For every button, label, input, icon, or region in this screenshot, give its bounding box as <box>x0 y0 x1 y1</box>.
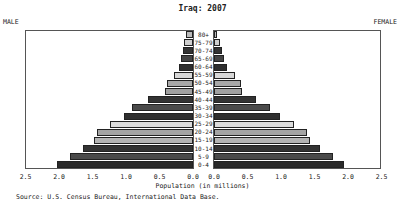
female-bar <box>214 129 307 136</box>
male-bar <box>97 129 193 136</box>
age-group-label: 0-4 <box>193 161 214 169</box>
age-group-label: 80+ <box>193 31 214 39</box>
x-tick-label: 1.5 <box>87 173 99 181</box>
male-bar <box>132 104 193 111</box>
female-bar <box>214 72 235 79</box>
x-tick-label: 1.0 <box>120 173 132 181</box>
x-tick-label: 0.0 <box>187 173 199 181</box>
age-group-label: 35-39 <box>193 104 214 112</box>
male-bar <box>148 96 193 103</box>
male-bar <box>181 55 193 62</box>
male-bar <box>183 47 193 54</box>
age-group-label: 40-44 <box>193 96 214 104</box>
female-bar <box>214 80 241 87</box>
female-label: FEMALE <box>374 18 397 26</box>
female-bar <box>214 88 242 95</box>
female-bar <box>214 64 227 71</box>
age-group-label: 30-34 <box>193 112 214 120</box>
age-group-label: 65-69 <box>193 55 214 63</box>
female-bar <box>214 121 294 128</box>
age-group-label: 45-49 <box>193 88 214 96</box>
x-tick-label: 2.0 <box>342 173 354 181</box>
male-bar <box>94 137 193 144</box>
male-bar <box>70 153 193 160</box>
male-bar <box>83 145 193 152</box>
male-bar <box>124 113 193 120</box>
female-bar <box>214 161 344 168</box>
age-group-label: 60-64 <box>193 63 214 71</box>
age-group-label: 50-54 <box>193 79 214 87</box>
male-bar <box>167 80 193 87</box>
female-bar <box>214 153 333 160</box>
x-tick-label: 0.5 <box>242 173 254 181</box>
female-bar <box>214 55 224 62</box>
male-bar <box>179 64 193 71</box>
male-bar <box>110 121 193 128</box>
age-group-label: 5-9 <box>193 153 214 161</box>
female-bar <box>214 31 217 38</box>
x-tick-label: 0.5 <box>154 173 166 181</box>
chart-title: Iraq: 2007 <box>0 4 405 13</box>
x-tick-label: 1.0 <box>275 173 287 181</box>
female-bar <box>214 145 320 152</box>
age-group-label: 20-24 <box>193 128 214 136</box>
age-group-label: 75-79 <box>193 39 214 47</box>
age-group-label: 55-59 <box>193 71 214 79</box>
female-bar <box>214 104 270 111</box>
age-group-label: 10-14 <box>193 145 214 153</box>
x-tick-label: 0.0 <box>208 173 220 181</box>
female-bar <box>214 47 222 54</box>
female-bar <box>214 39 220 46</box>
male-bar <box>184 39 193 46</box>
female-bar <box>214 113 280 120</box>
male-bar <box>57 161 193 168</box>
male-label: MALE <box>3 18 19 26</box>
female-bar <box>214 96 256 103</box>
x-axis-label: Population (in millions) <box>0 182 405 190</box>
age-group-label: 15-19 <box>193 136 214 144</box>
x-tick-label: 2.5 <box>376 173 388 181</box>
x-tick-label: 2.0 <box>53 173 65 181</box>
age-group-label: 70-74 <box>193 47 214 55</box>
source-note: Source: U.S. Census Bureau, Internationa… <box>16 193 220 201</box>
male-bar <box>186 31 193 38</box>
age-group-label: 25-29 <box>193 120 214 128</box>
x-tick-label: 2.5 <box>20 173 32 181</box>
x-tick-label: 1.5 <box>309 173 321 181</box>
male-bar <box>174 72 193 79</box>
male-bar <box>165 88 193 95</box>
female-bar <box>214 137 310 144</box>
